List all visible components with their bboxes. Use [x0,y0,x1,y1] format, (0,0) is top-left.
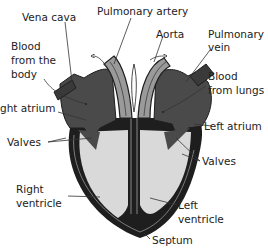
label-blood-from-lungs-line2: from lungs [208,84,264,96]
label-pulmonary-vein-line2: vein [208,41,230,53]
right-ventricle-chamber [79,130,128,218]
label-right-ventricle-line1: Right [16,183,44,195]
label-valves-right-side: Valves [7,136,41,148]
heart-diagram: Vena cava Pulmonary artery Aorta Pulmona… [0,0,268,252]
label-blood-from-body-line1: Blood [11,40,41,52]
label-left-ventricle-line2: ventricle [178,213,224,225]
label-septum: Septum [152,234,193,246]
label-right-ventricle-line2: ventricle [16,197,62,209]
label-left-atrium: Left atrium [204,120,262,132]
label-left-ventricle-line1: Left [178,199,198,211]
label-valves-left-side: Valves [202,155,236,167]
label-blood-from-body-line2: from the [11,54,56,66]
label-vena-cava: Vena cava [22,11,76,23]
label-pulmonary-vein-line1: Pulmonary [208,28,264,40]
label-blood-from-lungs-line1: Blood [208,70,238,82]
label-pulmonary-artery: Pulmonary artery [97,5,188,17]
label-blood-from-body-line3: body [11,68,37,80]
label-aorta: Aorta [156,28,184,40]
label-right-atrium: ght atrium [0,102,55,114]
